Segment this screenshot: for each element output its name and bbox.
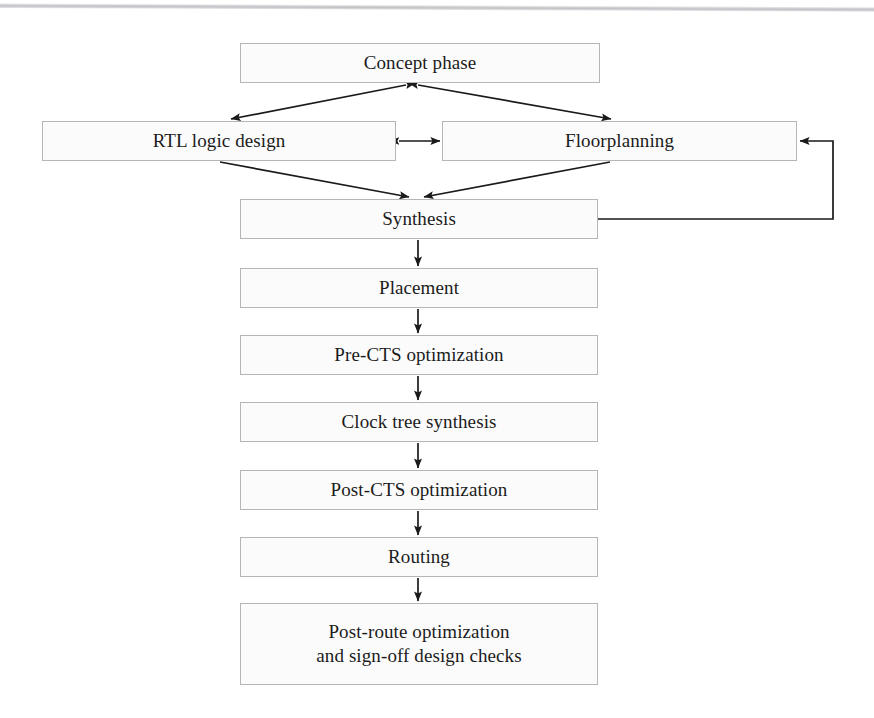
node-rtl-logic-design[interactable]: RTL logic design [42,121,396,161]
node-clock-tree-synthesis[interactable]: Clock tree synthesis [240,402,598,442]
node-label: Pre-CTS optimization [328,343,509,367]
node-label: Synthesis [376,207,462,231]
node-label: Placement [373,276,465,300]
node-floorplanning[interactable]: Floorplanning [442,121,797,161]
node-pre-cts-optimization[interactable]: Pre-CTS optimization [240,335,598,375]
node-label: Concept phase [358,51,483,75]
node-routing[interactable]: Routing [240,537,598,577]
diagram-canvas: Concept phase RTL logic design Floorplan… [0,0,874,718]
node-post-route-optimization[interactable]: Post-route optimization and sign-off des… [240,603,598,685]
edge-floorplanning-synthesis [424,162,610,197]
edge-rtl-synthesis [220,162,409,197]
node-label: RTL logic design [147,129,292,153]
node-label: Clock tree synthesis [335,410,502,434]
node-label: Routing [382,545,456,569]
node-label: Floorplanning [559,129,680,153]
edge-concept-rtl [231,85,406,119]
edge-concept-floorplanning [418,85,611,119]
scan-artifact-line [0,3,874,12]
node-label: Post-route optimization and sign-off des… [310,620,527,669]
node-post-cts-optimization[interactable]: Post-CTS optimization [240,470,598,510]
node-concept-phase[interactable]: Concept phase [240,43,600,83]
node-synthesis[interactable]: Synthesis [240,199,598,239]
node-placement[interactable]: Placement [240,268,598,308]
node-label: Post-CTS optimization [325,478,514,502]
